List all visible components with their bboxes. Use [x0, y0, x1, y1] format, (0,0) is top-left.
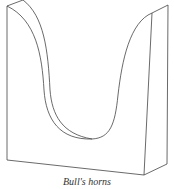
- bulls-horns-drawing: [0, 0, 174, 189]
- figure-caption: Bull's horns: [0, 176, 174, 187]
- inner-curve: [23, 0, 92, 139]
- front-face: [7, 6, 152, 175]
- top-right-edge: [152, 5, 168, 13]
- right-back-edge: [144, 5, 168, 175]
- top-left-edge: [7, 0, 23, 6]
